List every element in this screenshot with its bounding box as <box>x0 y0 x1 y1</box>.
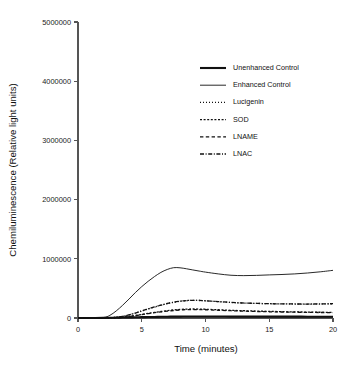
x-tick-label: 20 <box>329 325 337 334</box>
legend-item-label: Enhanced Control <box>233 80 291 89</box>
y-tick-label: 1000000 <box>42 255 71 264</box>
legend-item-label: LNAC <box>233 149 252 158</box>
x-tick-label: 5 <box>140 325 144 334</box>
legend-item-label: Lucigenin <box>233 97 264 106</box>
y-tick-label: 5000000 <box>42 18 71 27</box>
x-axis-title: Time (minutes) <box>174 343 238 354</box>
chemiluminescence-line-chart: 010000002000000300000040000005000000 051… <box>0 0 353 368</box>
legend-item-label: Unenhanced Control <box>233 63 299 72</box>
y-tick-label: 0 <box>67 314 71 323</box>
x-tick-label: 0 <box>76 325 80 334</box>
y-tick-label: 4000000 <box>42 77 71 86</box>
chart-figure: 010000002000000300000040000005000000 051… <box>0 0 353 368</box>
y-tick-label: 3000000 <box>42 136 71 145</box>
x-tick-label: 15 <box>265 325 273 334</box>
legend-item-label: LNAME <box>233 132 258 141</box>
legend-item-label: SOD <box>233 115 249 124</box>
y-axis-title: Chemiluminescence (Relative light units) <box>7 83 18 256</box>
x-tick-label: 10 <box>201 325 209 334</box>
y-tick-label: 2000000 <box>42 195 71 204</box>
